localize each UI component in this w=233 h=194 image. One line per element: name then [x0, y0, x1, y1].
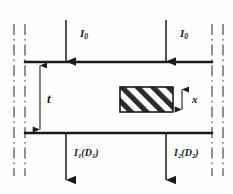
embedded-inclusion [120, 87, 173, 112]
slab-attenuation-diagram [0, 0, 233, 194]
label-slab-thickness: t [47, 92, 51, 105]
figure-container: I0 I0 t x I1(D1) I2(D2) [0, 0, 233, 194]
right-boundary-lines [212, 24, 223, 176]
label-inclusion-thickness: x [192, 94, 198, 105]
label-transmitted-left: I1(D1) [74, 148, 99, 160]
label-transmitted-right: I2(D2) [174, 148, 199, 160]
label-incident-left: I0 [80, 28, 88, 41]
slab-body [25, 62, 212, 133]
left-boundary-lines [14, 24, 25, 176]
inclusion-hatched-rect [120, 87, 173, 112]
label-incident-right: I0 [180, 28, 188, 41]
